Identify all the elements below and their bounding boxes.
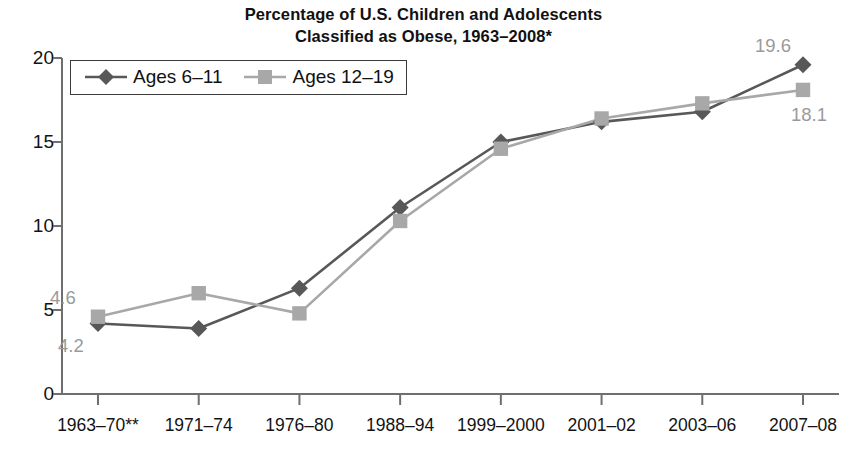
legend-item-label: Ages 6–11: [133, 66, 222, 88]
y-tick-label: 15: [14, 131, 54, 153]
data-point-square: [91, 310, 105, 324]
x-tick-label: 1971–74: [165, 415, 233, 436]
x-tick-label: 2001–02: [567, 415, 635, 436]
data-point-square: [393, 214, 407, 228]
plot-area: 4.64.219.618.1: [62, 58, 839, 394]
x-axis: 1963–70**1971–741976–801988–941999–20002…: [62, 415, 839, 441]
y-tick-label: 10: [14, 215, 54, 237]
x-tick-label: 2007–08: [769, 415, 837, 436]
x-tick-label: 2003–06: [668, 415, 736, 436]
legend-item: Ages 12–19: [242, 66, 393, 88]
obesity-line-chart-figure: Percentage of U.S. Children and Adolesce…: [0, 0, 847, 453]
data-point-value-label: 4.2: [58, 335, 84, 357]
data-point-diamond: [795, 56, 812, 73]
data-point-value-label: 4.6: [50, 287, 76, 309]
data-point-square: [192, 286, 206, 300]
y-tick-label: 5: [14, 299, 54, 321]
x-tick-label: 1963–70**: [57, 415, 139, 436]
chart-legend: Ages 6–11Ages 12–19: [70, 60, 407, 95]
legend-item: Ages 6–11: [83, 66, 222, 88]
data-point-square: [695, 96, 709, 110]
x-tick-label: 1976–80: [265, 415, 333, 436]
chart-title: Percentage of U.S. Children and Adolesce…: [0, 4, 847, 48]
legend-diamond-marker-icon: [83, 67, 129, 87]
data-point-value-label: 18.1: [791, 104, 827, 126]
data-point-square: [796, 83, 810, 97]
y-tick-label: 20: [14, 47, 54, 69]
legend-item-label: Ages 12–19: [292, 66, 393, 88]
legend-square-marker-icon: [242, 67, 288, 87]
data-point-diamond: [190, 320, 207, 337]
data-point-square: [494, 142, 508, 156]
series-line: [98, 90, 803, 317]
x-tick-label: 1999–2000: [457, 415, 545, 436]
data-point-square: [594, 111, 608, 125]
y-tick-label: 0: [14, 383, 54, 405]
x-tick-label: 1988–94: [366, 415, 434, 436]
y-axis: 05101520: [6, 58, 54, 394]
data-point-value-label: 19.6: [755, 35, 791, 57]
chart-title-line-2: Classified as Obese, 1963–2008*: [0, 26, 847, 48]
chart-canvas: [62, 58, 839, 394]
chart-title-line-1: Percentage of U.S. Children and Adolesce…: [0, 4, 847, 26]
series-2: [98, 90, 803, 317]
data-point-square: [292, 306, 306, 320]
